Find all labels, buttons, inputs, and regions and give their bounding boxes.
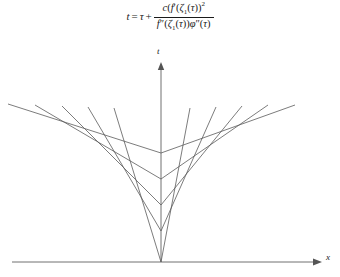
axes-group: [12, 62, 322, 265]
x-axis-arrowhead: [313, 259, 322, 266]
characteristics-diagram: [0, 0, 340, 277]
t-axis-label: t: [157, 46, 160, 56]
chevron-path: [114, 108, 190, 262]
chevron-path: [62, 106, 242, 205]
chevron-path: [88, 107, 216, 231]
figure-root: t=τ+ c(f′(ζ1(τ))2 f″(ζ1(τ))φ″(τ) t x: [0, 0, 340, 277]
x-axis-label: x: [326, 252, 330, 262]
t-axis-arrowhead: [158, 62, 164, 70]
chevron-group: [8, 104, 295, 262]
chevron-path: [35, 105, 268, 179]
chevron-path: [8, 104, 295, 153]
